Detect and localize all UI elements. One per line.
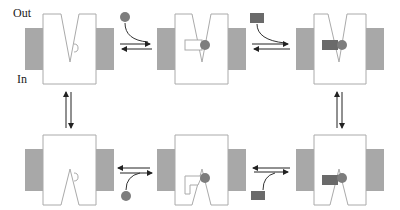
ligand-circle-binding-bottom	[118, 168, 152, 201]
bound-circle-ligand	[337, 40, 347, 50]
binding-site-circle	[74, 44, 78, 52]
ligand-circle-binding-top	[120, 12, 152, 49]
membrane-right	[96, 28, 114, 70]
bound-rect-ligand	[322, 40, 338, 50]
state-outward-open-empty	[25, 14, 114, 84]
state-inward-open-both-bound	[296, 135, 384, 205]
bound-circle-ligand	[200, 40, 210, 50]
state-outward-open-both-bound	[296, 14, 384, 84]
conformation-arrows-right	[337, 92, 342, 128]
state-outward-open-circle-bound	[157, 14, 246, 84]
ligand-rect-binding-top	[250, 13, 290, 49]
binding-site-rect	[185, 40, 202, 50]
free-rect-ligand	[250, 13, 264, 23]
free-circle-ligand	[120, 12, 130, 22]
state-inward-open-empty	[25, 135, 114, 205]
transport-cycle-diagram	[0, 0, 400, 210]
membrane-left	[25, 28, 43, 70]
transporter-body	[43, 14, 96, 84]
state-inward-open-circle-bound	[157, 135, 246, 205]
conformation-arrows-left	[66, 92, 71, 128]
ligand-rect-binding-bottom	[251, 168, 290, 200]
